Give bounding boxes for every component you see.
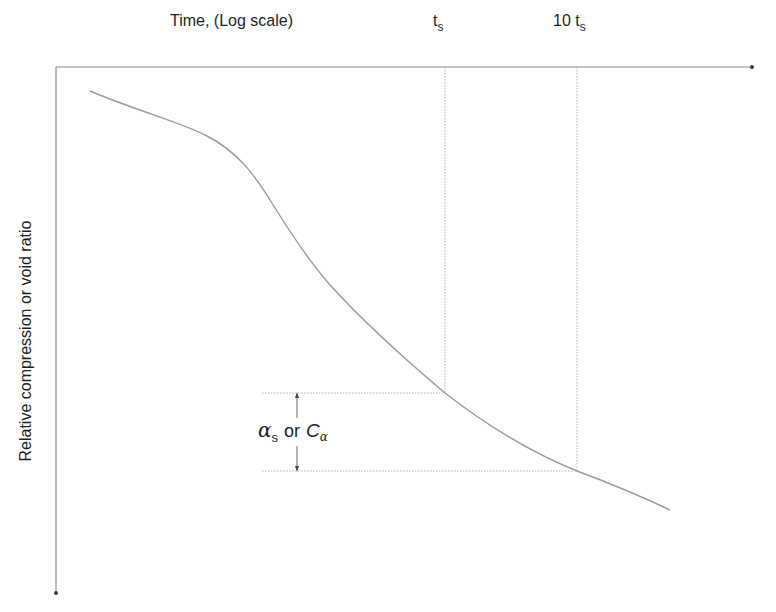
x-axis-label: Time, (Log scale) (170, 12, 293, 30)
ts-marker-label: ts (433, 12, 443, 30)
alpha-subscript: s (272, 430, 279, 445)
c-symbol: C (306, 420, 320, 441)
or-text: or (284, 421, 300, 441)
x-axis-label-text: Time, (Log scale) (170, 12, 293, 29)
ten-ts-subscript: s (580, 20, 586, 34)
ten-ts-marker-label: 10 ts (553, 12, 586, 30)
y-axis-label: Relative compression or void ratio (17, 221, 35, 462)
consolidation-curve (90, 91, 670, 510)
alpha-symbol: α (258, 418, 272, 442)
ts-subscript: s (437, 20, 443, 34)
c-subscript: α (320, 430, 328, 444)
secondary-compression-annotation: αsorCα (258, 418, 328, 442)
consolidation-diagram (0, 0, 776, 612)
ten-ts-prefix: 10 (553, 12, 575, 29)
